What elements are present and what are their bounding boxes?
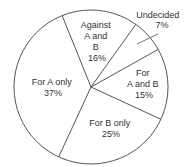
label-undecided: Undecided 7% (136, 10, 182, 30)
pie-chart: Against A and B 16% Undecided 7% For A a… (0, 0, 194, 167)
